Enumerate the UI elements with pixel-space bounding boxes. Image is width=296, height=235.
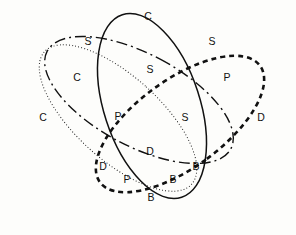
label-c-left-inner: C (73, 71, 81, 83)
label-p-center-left: P (114, 110, 121, 122)
label-s-upper-left: S (84, 35, 91, 47)
label-p-bottom: P (123, 173, 130, 185)
venn-diagram-svg: CSSCSPCPSDDDBPBB (0, 0, 296, 235)
venn-diagram-canvas: CSSCSPCPSDDDBPBB (0, 0, 296, 235)
ellipse-layer (16, 0, 286, 218)
region-label-layer: CSSCSPCPSDDDBPBB (39, 10, 265, 203)
label-c-top: C (144, 10, 152, 22)
label-d-far-right: D (257, 111, 265, 123)
label-d-lower-left: D (99, 160, 107, 172)
label-b-bottom: B (147, 191, 154, 203)
label-p-right-upper: P (223, 71, 230, 83)
ellipse-heavy-dashed (74, 30, 286, 218)
label-b-mid-bottom: B (169, 173, 176, 185)
label-s-center-top: S (146, 63, 153, 75)
label-b-lower-right: B (192, 160, 199, 172)
label-c-far-left: C (39, 111, 47, 123)
label-d-center: D (146, 145, 154, 157)
ellipse-dashdot (26, 11, 253, 190)
label-s-upper-right: S (208, 35, 215, 47)
label-s-center-right: S (181, 111, 188, 123)
